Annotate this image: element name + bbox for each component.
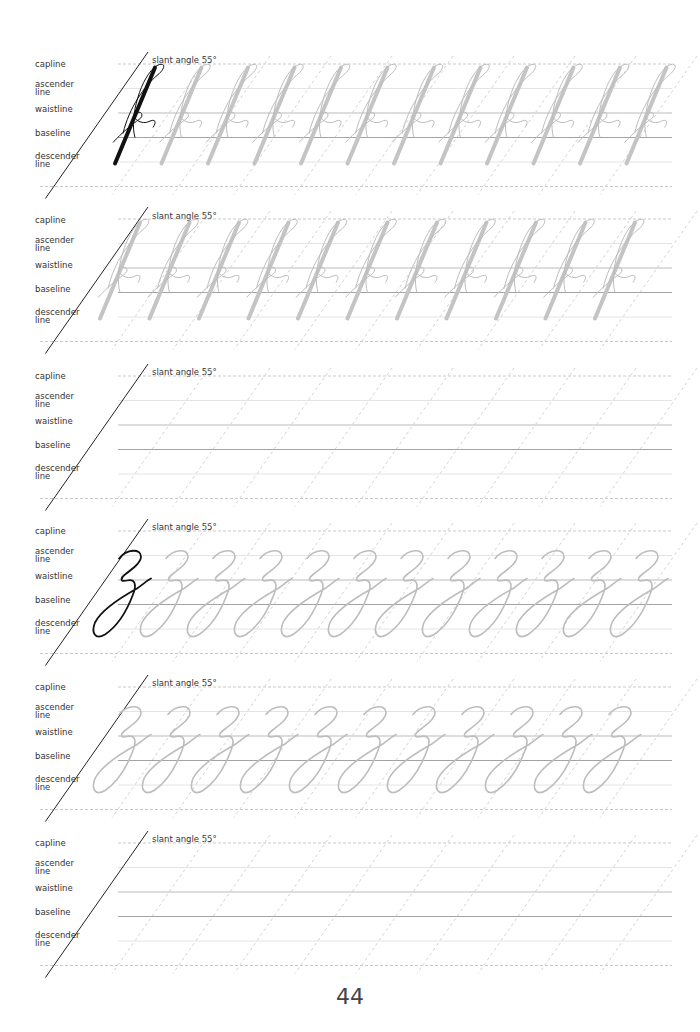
calligraphy-worksheet: capline ascender line waistline baseline… <box>0 0 700 1032</box>
guide-lines-and-letters <box>0 0 700 1032</box>
page-number: 44 <box>0 984 700 1009</box>
